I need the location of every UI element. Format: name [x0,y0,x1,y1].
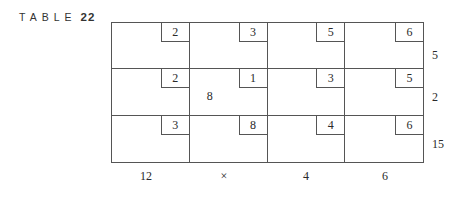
cost-box: 5 [316,23,344,42]
tableau-cell: 3 [190,23,268,69]
supply-value: 15 [432,137,452,152]
tableau-cell: 6 [345,23,423,69]
transportation-tableau: 2 3 5 6 2 1 8 3 5 3 8 4 6 [111,22,424,163]
cost-box: 3 [239,23,267,42]
cost-box: 1 [239,69,267,88]
cost-box: 5 [395,69,423,88]
demand-value: 12 [131,169,161,184]
table-caption: TABLE22 [19,11,95,23]
cost-box: 8 [239,116,267,135]
supply-value: 2 [432,90,452,105]
tableau-cell: 4 [268,116,346,162]
tableau-cell: 2 [112,23,190,69]
tableau-cell: 2 [112,69,190,115]
table-caption-number: 22 [80,11,95,23]
tableau-cell: 3 [268,69,346,115]
table-caption-label: TABLE [19,11,76,23]
cost-box: 3 [161,116,189,135]
cost-box: 2 [161,23,189,42]
tableau-cell: 1 8 [190,69,268,115]
allocation-value: 8 [207,89,213,104]
demand-value: × [209,169,239,184]
tableau-cell: 6 [345,116,423,162]
cost-box: 4 [316,116,344,135]
tableau-cell: 5 [268,23,346,69]
tableau-cell: 8 [190,116,268,162]
cost-box: 6 [395,23,423,42]
tableau-cell: 3 [112,116,190,162]
cost-box: 2 [161,69,189,88]
demand-value: 6 [370,169,400,184]
supply-value: 5 [432,48,452,63]
cost-box: 6 [395,116,423,135]
tableau-cell: 5 [345,69,423,115]
cost-box: 3 [316,69,344,88]
demand-value: 4 [291,169,321,184]
